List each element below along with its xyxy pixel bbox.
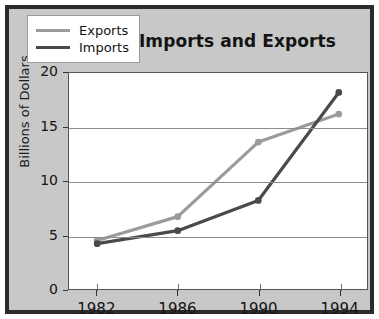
x-tick-label: 1994 [305,300,375,318]
data-point-imports [255,197,262,204]
x-tick-mark [340,290,341,296]
x-tick-mark [259,290,260,296]
y-tick-mark [63,181,68,182]
data-point-imports [174,227,181,234]
y-tick-label: 10 [0,172,58,188]
data-point-exports [255,139,262,146]
x-tick-mark [177,290,178,296]
data-point-imports [335,89,342,96]
gridline [69,128,367,129]
x-tick-inner [97,284,98,291]
y-tick-label: 20 [0,63,58,79]
plot-area [68,72,368,290]
y-tick-label: 5 [0,227,58,243]
x-tick-inner [341,284,342,291]
gridline [69,237,367,238]
y-tick-mark [63,127,68,128]
x-tick-label: 1986 [142,300,212,318]
gridline [69,182,367,183]
series-line-exports [97,114,339,240]
y-tick-mark [63,72,68,73]
x-tick-label: 1990 [224,300,294,318]
legend-label-exports: Exports [79,23,128,38]
chart-figure: Poland's Imports and Exports Billions of… [0,0,379,319]
y-tick-mark [63,290,68,291]
x-tick-mark [96,290,97,296]
chart-frame: Poland's Imports and Exports Billions of… [5,5,374,314]
x-tick-label: 1982 [61,300,131,318]
y-tick-mark [63,236,68,237]
x-tick-inner [178,284,179,291]
data-point-imports [94,240,101,247]
series-layer [69,73,367,289]
data-point-exports [335,111,342,118]
y-tick-label: 15 [0,118,58,134]
chart-legend: Exports Imports [27,15,140,63]
legend-item-imports: Imports [36,39,129,56]
legend-label-imports: Imports [79,40,129,55]
y-tick-label: 0 [0,281,58,297]
legend-swatch-imports [36,46,70,49]
x-tick-inner [260,284,261,291]
legend-swatch-exports [36,29,70,32]
series-line-imports [97,92,339,243]
data-point-exports [174,213,181,220]
legend-item-exports: Exports [36,22,129,39]
